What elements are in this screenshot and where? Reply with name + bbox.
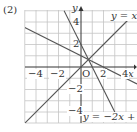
origin-label: O	[82, 69, 90, 79]
y-axis-arrow-icon	[79, 6, 84, 11]
line-y-equals-neg2x-plus-2	[64, 11, 115, 112]
y-tick-neg2: −2	[67, 84, 84, 94]
y-tick-2: 2	[73, 39, 79, 49]
coordinate-diagram: (2) y x O −4 −2 2 4 4 2 −2 −4 y = x y = …	[0, 0, 137, 132]
y-axis-label: y	[72, 3, 78, 13]
x-tick-neg2: −2	[49, 69, 66, 79]
x-tick-neg4: −4	[27, 69, 44, 79]
problem-label: (2)	[3, 5, 17, 15]
y-tick-4: 4	[73, 17, 79, 27]
x-tick-2: 2	[99, 69, 107, 79]
line-label-y-equals-neg2x-plus-2: y = −2x + 2	[82, 112, 137, 122]
x-axis-arrow-icon	[134, 65, 137, 70]
line-label-y-equals-x: y = x	[110, 11, 137, 21]
x-tick-4: 4	[121, 69, 129, 79]
